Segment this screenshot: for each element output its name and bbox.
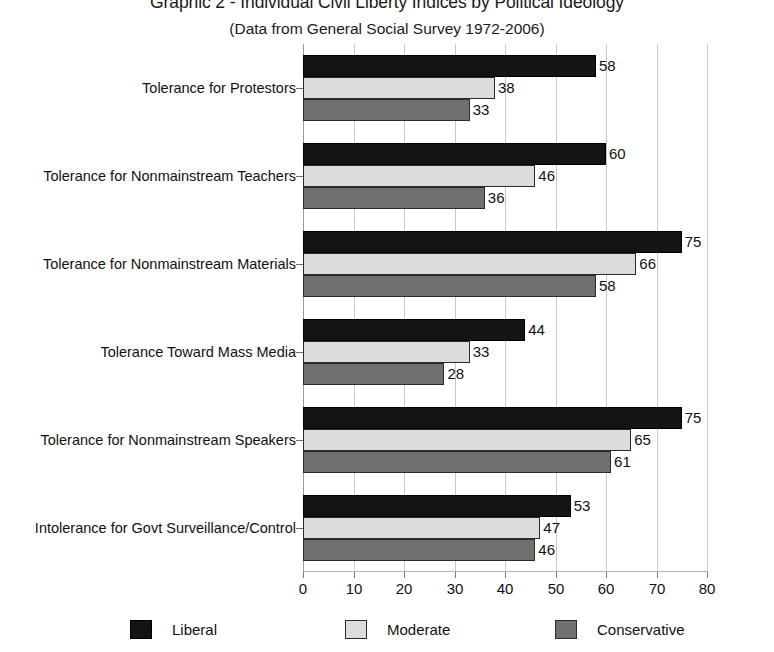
x-axis-label-20: 20 — [379, 580, 429, 597]
bar-moderate[interactable] — [303, 429, 631, 451]
bar-row: 46 — [303, 539, 707, 561]
bar-row: 44 — [303, 319, 707, 341]
x-axis-label-50: 50 — [531, 580, 581, 597]
bar-value-label: 33 — [473, 343, 490, 361]
gridline-70 — [657, 44, 658, 572]
category-tick — [296, 264, 303, 265]
bar-value-label: 75 — [685, 233, 702, 251]
bar-liberal[interactable] — [303, 407, 682, 429]
category-tick — [296, 528, 303, 529]
bar-moderate[interactable] — [303, 253, 636, 275]
x-axis-tick-20 — [404, 572, 405, 578]
category-label: Tolerance for Nonmainstream Materials — [6, 256, 296, 272]
bar-liberal[interactable] — [303, 231, 682, 253]
x-axis-label-60: 60 — [581, 580, 631, 597]
bar-group: 583833 — [303, 55, 707, 121]
bar-liberal[interactable] — [303, 319, 525, 341]
bar-liberal[interactable] — [303, 495, 571, 517]
bar-value-label: 38 — [498, 79, 515, 97]
bar-value-label: 65 — [634, 431, 651, 449]
bar-row: 60 — [303, 143, 707, 165]
gridline-20 — [404, 44, 405, 572]
category-tick — [296, 440, 303, 441]
gridline-10 — [354, 44, 355, 572]
bar-value-label: 75 — [685, 409, 702, 427]
bar-value-label: 36 — [488, 189, 505, 207]
bar-moderate[interactable] — [303, 341, 470, 363]
bar-row: 75 — [303, 407, 707, 429]
bar-value-label: 28 — [447, 365, 464, 383]
bar-row: 46 — [303, 165, 707, 187]
bar-value-label: 47 — [543, 519, 560, 537]
x-axis-tick-60 — [606, 572, 607, 578]
legend-label-liberal: Liberal — [172, 621, 217, 638]
x-axis-tick-80 — [707, 572, 708, 578]
bar-value-label: 60 — [609, 145, 626, 163]
bar-group: 443328 — [303, 319, 707, 385]
gridline-40 — [505, 44, 506, 572]
bar-moderate[interactable] — [303, 517, 540, 539]
legend-swatch-conservative — [555, 620, 577, 639]
gridline-60 — [606, 44, 607, 572]
x-axis-tick-70 — [657, 572, 658, 578]
x-axis-label-30: 30 — [430, 580, 480, 597]
bar-value-label: 53 — [574, 497, 591, 515]
bar-row: 28 — [303, 363, 707, 385]
gridline-30 — [455, 44, 456, 572]
legend-swatch-liberal — [130, 620, 152, 639]
bar-row: 38 — [303, 77, 707, 99]
x-axis-tick-50 — [556, 572, 557, 578]
x-axis-tick-0 — [303, 572, 304, 578]
x-axis-label-40: 40 — [480, 580, 530, 597]
bar-value-label: 46 — [538, 541, 555, 559]
x-axis-label-0: 0 — [278, 580, 328, 597]
category-tick — [296, 88, 303, 89]
gridline-50 — [556, 44, 557, 572]
bar-conservative[interactable] — [303, 99, 470, 121]
bar-row: 36 — [303, 187, 707, 209]
legend-item-conservative[interactable]: Conservative — [555, 617, 685, 641]
legend-item-moderate[interactable]: Moderate — [345, 617, 450, 641]
chart-title: Graphic 2 - Individual Civil Liberty Ind… — [0, 0, 774, 13]
x-axis-label-70: 70 — [632, 580, 682, 597]
bar-row: 66 — [303, 253, 707, 275]
bar-conservative[interactable] — [303, 363, 444, 385]
bar-moderate[interactable] — [303, 77, 495, 99]
bar-value-label: 61 — [614, 453, 631, 471]
bar-liberal[interactable] — [303, 143, 606, 165]
legend-item-liberal[interactable]: Liberal — [130, 617, 217, 641]
bar-row: 33 — [303, 99, 707, 121]
bar-value-label: 44 — [528, 321, 545, 339]
bar-moderate[interactable] — [303, 165, 535, 187]
bar-conservative[interactable] — [303, 187, 485, 209]
x-axis-tick-40 — [505, 572, 506, 578]
category-label: Tolerance for Nonmainstream Teachers — [6, 168, 296, 184]
bar-row: 47 — [303, 517, 707, 539]
category-label: Intolerance for Govt Surveillance/Contro… — [6, 520, 296, 536]
bar-liberal[interactable] — [303, 55, 596, 77]
x-axis-label-10: 10 — [329, 580, 379, 597]
category-label: Tolerance Toward Mass Media — [6, 344, 296, 360]
gridline-0 — [303, 44, 304, 572]
plot-area: 583833604636756658443328756561534746 — [303, 44, 707, 572]
bar-group: 756658 — [303, 231, 707, 297]
bar-value-label: 66 — [639, 255, 656, 273]
x-axis-label-80: 80 — [682, 580, 732, 597]
bar-conservative[interactable] — [303, 451, 611, 473]
bar-conservative[interactable] — [303, 275, 596, 297]
bar-group: 756561 — [303, 407, 707, 473]
bar-value-label: 33 — [473, 101, 490, 119]
category-tick — [296, 352, 303, 353]
bar-group: 534746 — [303, 495, 707, 561]
category-label: Tolerance for Protestors — [6, 80, 296, 96]
bar-row: 53 — [303, 495, 707, 517]
category-label: Tolerance for Nonmainstream Speakers — [6, 432, 296, 448]
bar-value-label: 46 — [538, 167, 555, 185]
x-axis-tick-10 — [354, 572, 355, 578]
bar-row: 75 — [303, 231, 707, 253]
bar-row: 65 — [303, 429, 707, 451]
legend-label-conservative: Conservative — [597, 621, 685, 638]
gridline-80 — [707, 44, 708, 572]
chart-subtitle: (Data from General Social Survey 1972-20… — [0, 20, 774, 38]
bar-conservative[interactable] — [303, 539, 535, 561]
